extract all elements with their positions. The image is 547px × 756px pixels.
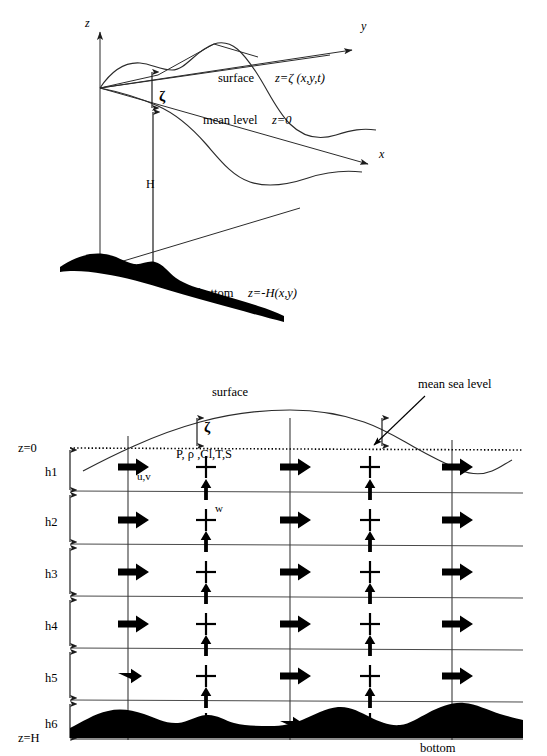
axis-z: z [84, 16, 100, 272]
lower-diagram: z=0 z=H h1 h2 h3 h4 h5 h6 ζ [0, 340, 547, 756]
annotation-bottom-upper: bottom z=-H(x,y) [198, 286, 297, 300]
layer-label-h3: h3 [45, 567, 58, 581]
surface-label: surface [218, 71, 255, 85]
uv-arrow [280, 458, 311, 475]
upper-diagram: z y x ζ H [0, 0, 547, 330]
uv-arrow [280, 667, 311, 684]
scalar-cross [196, 561, 216, 583]
scalar-cross [360, 613, 380, 635]
w-arrow [201, 583, 212, 604]
surface-equation: z=ζ (x,y,t) [274, 71, 325, 85]
annotation-mean-level-upper: mean level z=0 [203, 113, 292, 127]
w-label: w [215, 502, 223, 514]
w-arrow [201, 531, 212, 552]
uv-arrow-column-2 [280, 458, 311, 731]
depth-scale: z=0 z=H h1 h2 h3 h4 h5 h6 [18, 441, 70, 745]
layer-label-h4: h4 [45, 619, 58, 633]
surface-label-lower: surface [212, 385, 249, 399]
uv-arrow [280, 511, 311, 528]
w-arrow [365, 531, 376, 552]
uv-arrow [442, 563, 473, 580]
layer-label-h6: h6 [45, 717, 58, 731]
uv-arrow-column-1 [118, 458, 149, 731]
bottom-label: bottom [198, 286, 234, 300]
uv-arrow [118, 563, 149, 580]
dimension-zeta: ζ [152, 72, 166, 108]
layer-label-h2: h2 [45, 515, 58, 529]
zeta-label-lower: ζ [204, 419, 211, 435]
dimension-H: H [146, 112, 155, 272]
mean-sea-level-label: mean sea level [418, 377, 492, 391]
scalar-cross [196, 509, 216, 531]
scalar-cross [360, 509, 380, 531]
w-arrow [365, 635, 376, 656]
level-zH-label: z=H [18, 731, 40, 745]
layer-label-h1: h1 [45, 465, 58, 479]
w-arrow [201, 687, 212, 708]
scalar-cross [196, 613, 216, 635]
bottom-label-lower: bottom [420, 741, 456, 755]
uv-arrow [280, 563, 311, 580]
uv-arrow [442, 615, 473, 632]
uv-arrow [118, 615, 149, 632]
zeta-label: ζ [159, 88, 166, 104]
H-label: H [146, 177, 155, 191]
scalar-cross [360, 665, 380, 687]
uv-arrow-column-3 [442, 458, 473, 728]
surface-wave-curve-x [100, 88, 362, 185]
annotation-surface-upper: surface z=ζ (x,y,t) [218, 71, 325, 85]
uv-label: u,v [137, 470, 151, 482]
layer-label-h5: h5 [45, 671, 58, 685]
mean-level-label: mean level [203, 113, 258, 127]
w-arrow [365, 687, 376, 708]
uv-arrow [118, 669, 142, 683]
mean-level-equation: z=0 [271, 113, 292, 127]
w-arrow [201, 479, 212, 500]
level-z0-label: z=0 [18, 441, 37, 455]
uv-arrow [442, 667, 473, 684]
figure-canvas: z y x ζ H [0, 0, 547, 756]
w-arrow [365, 479, 376, 500]
axis-y-label: y [360, 19, 367, 33]
scalar-cross [196, 665, 216, 687]
axis-z-label: z [84, 16, 90, 30]
w-arrow [365, 583, 376, 604]
bottom-plane-edge [100, 208, 300, 268]
bottom-equation: z=-H(x,y) [247, 286, 297, 300]
axis-x-label: x [378, 147, 385, 161]
scalar-cross [360, 561, 380, 583]
scalar-cross [360, 456, 380, 478]
uv-arrow [280, 615, 311, 632]
mean-sea-level-line [70, 448, 523, 450]
scalars-label: P, ρ ,Cl,T,S [176, 447, 232, 461]
uv-arrow [442, 511, 473, 528]
w-arrow [201, 635, 212, 656]
uv-arrow [118, 511, 149, 528]
